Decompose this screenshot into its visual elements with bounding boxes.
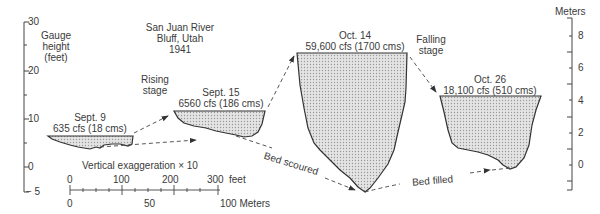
section-flow: 59,600 cfs (1700 cms) xyxy=(300,41,410,52)
section-date: Oct. 26 xyxy=(440,74,540,85)
section-flow: 6560 cfs (186 cms) xyxy=(176,98,266,109)
section-date: Sept. 15 xyxy=(176,87,266,98)
scale-feet-unit: feet xyxy=(229,174,246,185)
section-flow: 18,100 cfs (510 cms) xyxy=(440,85,540,96)
axis-label-line: height xyxy=(36,41,76,52)
right-axis-label: Meters xyxy=(555,6,586,17)
label-line: Falling xyxy=(412,34,450,45)
axis-label-line: Gauge xyxy=(36,30,76,41)
scale-meters-50: 50 xyxy=(144,198,155,209)
sept15-label: Sept. 15 6560 cfs (186 cms) xyxy=(176,87,266,109)
right-axis xyxy=(567,18,572,190)
section-sept9 xyxy=(48,136,133,149)
title-line: Bluff, Utah xyxy=(140,33,220,44)
left-tick-minus5: − 5 xyxy=(26,186,40,197)
title-line: San Juan River xyxy=(140,22,220,33)
section-oct26 xyxy=(440,96,541,169)
sept9-label: Sept. 9 635 cfs (18 cms) xyxy=(50,112,130,134)
right-tick-2: 2 xyxy=(578,127,584,138)
left-axis-label: Gauge height (feet) xyxy=(36,30,76,63)
title-line: 1941 xyxy=(140,44,220,55)
section-date: Oct. 14 xyxy=(300,30,410,41)
right-tick-0: 0 xyxy=(578,159,584,170)
left-tick-0: 0 xyxy=(28,161,34,172)
scale-feet-100: 100 xyxy=(113,174,130,185)
section-flow: 635 cfs (18 cms) xyxy=(50,123,130,134)
right-tick-6: 6 xyxy=(578,62,584,73)
axis-label-line: (feet) xyxy=(36,52,76,63)
label-line: stage xyxy=(412,45,450,56)
right-tick-4: 4 xyxy=(578,95,584,106)
left-tick-30: 30 xyxy=(28,16,39,27)
oct26-label: Oct. 26 18,100 cfs (510 cms) xyxy=(440,74,540,96)
scale-meters-100: 100 Meters xyxy=(220,198,270,209)
diagram-title: San Juan River Bluff, Utah 1941 xyxy=(140,22,220,55)
scale-bar xyxy=(70,185,220,195)
vertical-exaggeration-label: Vertical exaggeration × 10 xyxy=(82,160,198,171)
label-line: Rising xyxy=(138,74,172,85)
oct14-label: Oct. 14 59,600 cfs (1700 cms) xyxy=(300,30,410,52)
right-tick-8: 8 xyxy=(578,30,584,41)
left-tick-20: 20 xyxy=(28,65,39,76)
rising-stage-label: Rising stage xyxy=(138,74,172,96)
left-tick-10: 10 xyxy=(28,113,39,124)
scale-feet-300: 300 xyxy=(207,174,224,185)
scale-feet-200: 200 xyxy=(162,174,179,185)
falling-stage-label: Falling stage xyxy=(412,34,450,56)
scale-feet-0: 0 xyxy=(67,174,73,185)
section-date: Sept. 9 xyxy=(50,112,130,123)
label-line: stage xyxy=(138,85,172,96)
scale-meters-0: 0 xyxy=(67,198,73,209)
section-sept15 xyxy=(174,111,265,137)
